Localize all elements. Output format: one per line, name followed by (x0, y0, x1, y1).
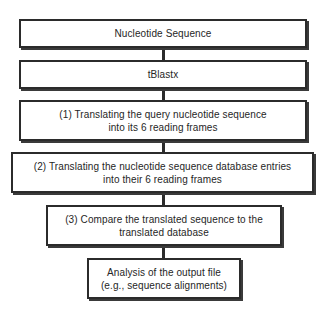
node-step-2-line-2: into their 6 reading frames (103, 173, 222, 186)
node-nucleotide-sequence-line-1: Nucleotide Sequence (115, 27, 212, 40)
node-analysis-output: Analysis of the output file (e.g., seque… (87, 258, 241, 299)
node-step-2-translate-database: (2) Translating the nucleotide sequence … (11, 152, 314, 193)
node-step-1-line-1: (1) Translating the query nucleotide seq… (59, 108, 266, 121)
node-analysis-line-2: (e.g., sequence alignments) (101, 279, 227, 292)
node-step-3-line-1: (3) Compare the translated sequence to t… (65, 213, 263, 226)
node-step-2-line-1: (2) Translating the nucleotide sequence … (34, 160, 291, 173)
node-step-3-compare: (3) Compare the translated sequence to t… (46, 205, 282, 246)
node-analysis-line-1: Analysis of the output file (107, 266, 221, 279)
node-step-1-line-2: into its 6 reading frames (108, 121, 217, 134)
flowchart-canvas: Nucleotide Sequence tBlastx (1) Translat… (0, 0, 327, 313)
node-step-1-translate-query: (1) Translating the query nucleotide seq… (19, 100, 307, 141)
node-nucleotide-sequence: Nucleotide Sequence (19, 19, 307, 48)
node-tblastx: tBlastx (19, 60, 307, 89)
node-tblastx-line-1: tBlastx (148, 68, 179, 81)
node-step-3-line-2: translated database (119, 226, 209, 239)
